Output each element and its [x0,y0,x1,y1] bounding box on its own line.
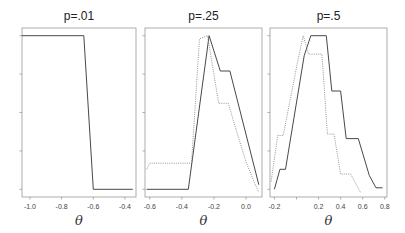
x-tick-label: -0.4 [119,203,131,210]
x-tick-label: -0.6 [144,203,156,210]
x-axis-label: θ [75,213,83,228]
x-axis-label: θ [325,213,333,228]
panel-title: p=.01 [64,9,95,23]
series-solid-line [22,36,133,190]
x-tick-label: 0.2 [314,203,324,210]
x-tick-label: -1.0 [24,203,36,210]
x-tick-label: 0.0 [241,203,251,210]
panel-p5: p=.5-0.20.20.40.60.8θ [268,9,390,228]
plot-frame [145,28,262,197]
series-solid-line [147,36,259,190]
x-tick-label: -0.2 [208,203,220,210]
x-axis-label: θ [200,213,208,228]
plot-frame [22,28,136,197]
x-tick-label: -0.6 [87,203,99,210]
panel-p01: p=.01-1.0-0.8-0.6-0.4θ [20,9,137,228]
panel-p25: p=.25-0.6-0.4-0.20.0θ [143,9,263,228]
series-solid-line [274,36,382,190]
figure: p=.01-1.0-0.8-0.6-0.4θ p=.25-0.6-0.4-0.2… [0,0,405,233]
x-tick-label: -0.8 [56,203,68,210]
x-tick-label: -0.2 [268,203,280,210]
x-tick-label: -0.4 [176,203,188,210]
panel-title: p=.5 [317,9,341,23]
x-tick-label: 0.8 [380,203,390,210]
series-dotted-line [147,36,259,193]
panel-title: p=.25 [188,9,219,23]
x-tick-label: 0.6 [358,203,368,210]
x-tick-label: 0.4 [336,203,346,210]
